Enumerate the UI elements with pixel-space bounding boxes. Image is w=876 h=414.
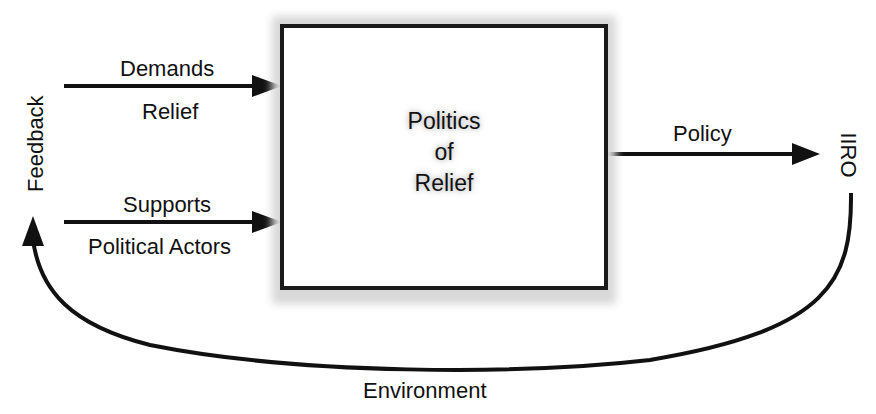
policy-label: Policy bbox=[673, 121, 732, 147]
box-line-3: Relief bbox=[280, 168, 608, 199]
supports-label: Supports bbox=[123, 192, 211, 218]
environment-label: Environment bbox=[363, 378, 487, 404]
process-box-label: Politics of Relief bbox=[280, 106, 608, 199]
box-line-1: Politics bbox=[280, 106, 608, 137]
politics-of-relief-diagram: Politics of Relief Demands Relief Suppor… bbox=[0, 0, 876, 414]
iiro-label: IIRO bbox=[835, 127, 861, 183]
political-actors-label: Political Actors bbox=[88, 234, 231, 260]
feedback-label: Feedback bbox=[23, 102, 49, 192]
demands-label: Demands bbox=[120, 56, 214, 82]
relief-label: Relief bbox=[142, 99, 198, 125]
box-line-2: of bbox=[280, 137, 608, 168]
